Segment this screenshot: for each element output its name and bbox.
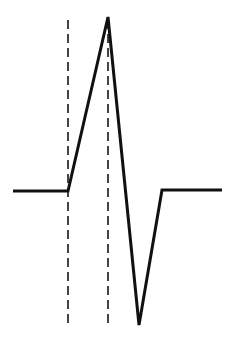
background [0, 0, 237, 337]
waveform-diagram [0, 0, 237, 337]
